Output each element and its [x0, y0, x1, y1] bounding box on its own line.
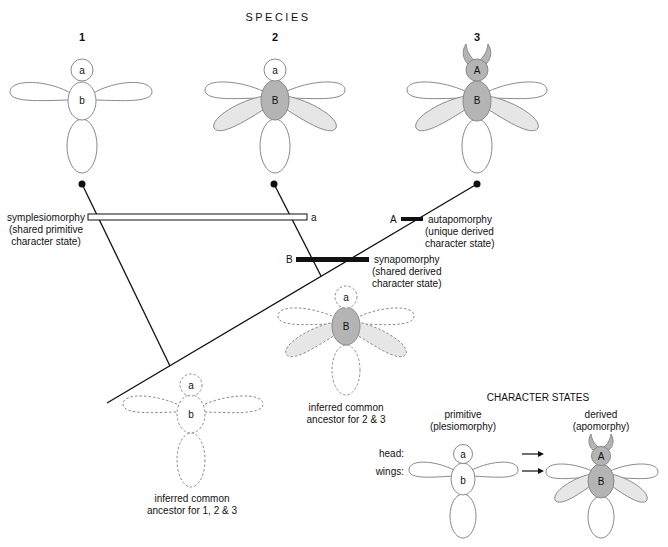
legend-primitive-insect: a b: [409, 445, 518, 539]
abdomen: [462, 119, 492, 173]
upper-right-wing: [487, 82, 547, 99]
species-1-number: 1: [79, 31, 85, 43]
species-1-insect: a b: [10, 59, 152, 173]
tip-species-1: [79, 181, 86, 188]
tip-species-3: [474, 181, 481, 188]
synapomorphy-term: synapomorphy: [374, 254, 440, 265]
branch-species-2: [274, 184, 321, 276]
arrow-wings-icon: [522, 468, 544, 474]
species-2-insect: a B: [205, 59, 345, 173]
left-wing: [409, 462, 454, 477]
legend-row-wings: wings:: [375, 466, 404, 477]
legend-derived-label: derived: [585, 409, 618, 420]
left-wing: [10, 82, 72, 100]
symplesiomorphy-term: symplesiomorphy: [7, 212, 85, 223]
legend-title: CHARACTER STATES: [487, 392, 590, 403]
abdomen: [588, 496, 614, 538]
head-label: a: [460, 449, 466, 460]
body-label: b: [188, 409, 194, 420]
upper-left-wing: [205, 82, 265, 99]
upper-right-wing: [285, 82, 345, 99]
symplesiomorphy-state-label: a: [311, 212, 317, 223]
head-label: a: [188, 380, 194, 391]
right-wing: [201, 396, 263, 413]
arrow-head-icon: [522, 451, 544, 457]
head-label: a: [272, 65, 278, 76]
body-label: B: [343, 321, 350, 332]
ancestor-1-2-3-insect: a b inferred common ancestor for 1, 2 & …: [123, 374, 263, 516]
legend-primitive-term: (plesiomorphy): [430, 421, 496, 432]
lower-left-wing: [416, 96, 468, 131]
abdomen: [260, 119, 290, 173]
species-3-number: 3: [474, 31, 480, 43]
right-wing: [472, 462, 518, 477]
lower-right-wing: [486, 96, 538, 131]
species-2-number: 2: [272, 31, 278, 43]
cladogram-diagram: SPECIES 1 2 3 a b a B A B: [0, 0, 668, 547]
autapomorphy-marker: A autapomorphy (unique derived character…: [390, 214, 494, 249]
upper-left-wing: [407, 82, 467, 99]
ancestor-2-3-insect: a B inferred common ancestor for 2 & 3: [278, 286, 414, 425]
head-label: A: [474, 65, 481, 76]
symplesiomorphy-bar: [88, 214, 307, 220]
synapomorphy-desc-2: character state): [372, 278, 441, 289]
left-wing: [123, 396, 181, 413]
synapomorphy-state-label: B: [286, 254, 293, 265]
body-label: b: [460, 475, 466, 486]
abdomen: [67, 119, 97, 173]
autapomorphy-term: autapomorphy: [428, 214, 492, 225]
lower-right-wing: [284, 96, 336, 131]
body-label: b: [79, 95, 85, 106]
autapomorphy-bar: [401, 217, 423, 221]
head-label: A: [598, 451, 605, 462]
legend-derived-insect: A B: [546, 434, 658, 538]
head-label: a: [343, 292, 349, 303]
ancestor-2-3-caption-2: ancestor for 2 & 3: [307, 414, 386, 425]
autapomorphy-state-label: A: [390, 214, 397, 225]
upper-right-wing: [356, 308, 414, 325]
legend-primitive-label: primitive: [444, 409, 482, 420]
symplesiomorphy-desc-1: (shared primitive: [9, 224, 83, 235]
body-label: B: [272, 95, 279, 106]
lower-left-wing: [286, 322, 337, 357]
branch-species-1: [82, 184, 170, 366]
symplesiomorphy-desc-2: character state): [11, 236, 80, 247]
lower-right-wing: [355, 322, 406, 357]
species-title: SPECIES: [245, 11, 310, 23]
body-label: B: [474, 95, 481, 106]
synapomorphy-bar: [296, 257, 369, 262]
right-wing: [92, 82, 152, 100]
body-label: B: [598, 476, 605, 487]
ancestor-1-2-3-caption-2: ancestor for 1, 2 & 3: [147, 505, 237, 516]
species-3-insect: A B: [407, 44, 547, 173]
symplesiomorphy-marker: a symplesiomorphy (shared primitive char…: [7, 212, 317, 247]
abdomen: [450, 494, 476, 538]
character-states-legend: CHARACTER STATES primitive (plesiomorphy…: [375, 392, 658, 538]
abdomen: [332, 345, 360, 395]
lower-left-wing: [214, 96, 266, 131]
upper-left-wing: [278, 308, 336, 325]
autapomorphy-desc-2: character state): [425, 238, 494, 249]
tip-species-2: [271, 181, 278, 188]
legend-row-head: head:: [379, 448, 404, 459]
ancestor-2-3-caption-1: inferred common: [308, 402, 383, 413]
head-label: a: [79, 65, 85, 76]
abdomen: [177, 433, 205, 487]
autapomorphy-desc-1: (unique derived: [425, 226, 494, 237]
synapomorphy-desc-1: (shared derived: [372, 266, 441, 277]
legend-derived-term: (apomorphy): [573, 421, 630, 432]
ancestor-1-2-3-caption-1: inferred common: [154, 493, 229, 504]
